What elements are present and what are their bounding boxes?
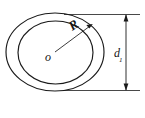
dimension-arrowhead-top-icon	[124, 14, 129, 21]
figure-container: o R d1	[0, 0, 145, 118]
dimension-arrowhead-bottom-icon	[124, 84, 129, 91]
center-label: o	[45, 51, 51, 63]
diameter-label-subscript: 1	[119, 56, 123, 64]
diameter-label: d1	[114, 47, 124, 62]
inner-circle	[18, 21, 93, 84]
